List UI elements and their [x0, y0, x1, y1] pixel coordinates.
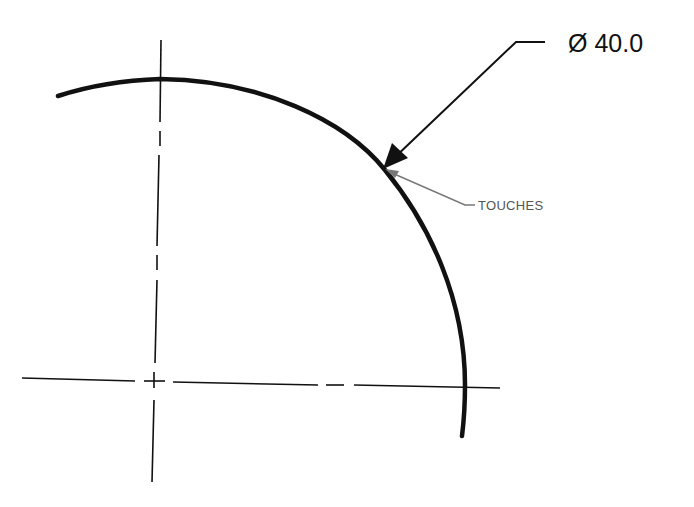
horizontal-centerline — [22, 378, 500, 388]
technical-drawing: Ø 40.0 TOUCHES — [0, 0, 694, 507]
leader-arrowhead — [383, 143, 408, 169]
touches-note-label: TOUCHES — [478, 198, 543, 213]
vertical-centerline — [152, 40, 161, 482]
diameter-leader — [383, 42, 545, 169]
diameter-dimension-label: Ø 40.0 — [568, 29, 643, 57]
circle-arc — [58, 79, 465, 436]
